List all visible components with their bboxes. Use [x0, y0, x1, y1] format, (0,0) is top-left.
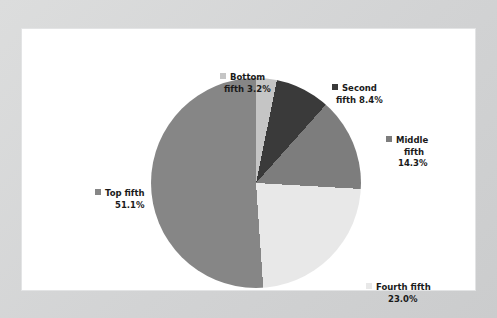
slice-label-second-fifth-line1: Second — [342, 83, 377, 93]
slice-label-top-fifth: Top fifth 51.1% — [95, 188, 145, 211]
legend-swatch-bottom-fifth — [220, 73, 226, 79]
slice-label-bottom-fifth: Bottom fifth 3.2% — [220, 72, 271, 95]
screenshot-frame: Bottom fifth 3.2% Second fifth 8.4% Midd… — [0, 0, 497, 318]
legend-swatch-fourth-fifth — [366, 283, 372, 289]
pie-chart — [151, 78, 361, 288]
pie-slices — [151, 78, 361, 288]
slice-label-middle-fifth-line1: Middle — [396, 135, 428, 145]
legend-swatch-top-fifth — [95, 189, 101, 195]
slice-label-second-fifth: Second fifth 8.4% — [332, 83, 383, 106]
legend-swatch-second-fifth — [332, 84, 338, 90]
slice-label-top-fifth-line2: 51.1% — [95, 200, 145, 212]
slice-label-middle-fifth-line2: fifth — [386, 147, 428, 159]
slice-label-middle-fifth-line3: 14.3% — [386, 158, 428, 170]
slice-label-top-fifth-line1: Top fifth — [105, 188, 145, 198]
chart-panel: Bottom fifth 3.2% Second fifth 8.4% Midd… — [22, 29, 475, 290]
slice-label-bottom-fifth-line1: Bottom — [230, 72, 265, 82]
slice-label-fourth-fifth-line1: Fourth fifth — [376, 282, 431, 292]
slice-label-second-fifth-line2: fifth 8.4% — [332, 95, 383, 107]
slice-label-bottom-fifth-line2: fifth 3.2% — [220, 84, 271, 96]
slice-label-fourth-fifth: Fourth fifth 23.0% — [366, 282, 431, 305]
slice-label-middle-fifth: Middle fifth 14.3% — [386, 135, 428, 170]
legend-swatch-middle-fifth — [386, 136, 392, 142]
slice-label-fourth-fifth-line2: 23.0% — [366, 294, 431, 306]
